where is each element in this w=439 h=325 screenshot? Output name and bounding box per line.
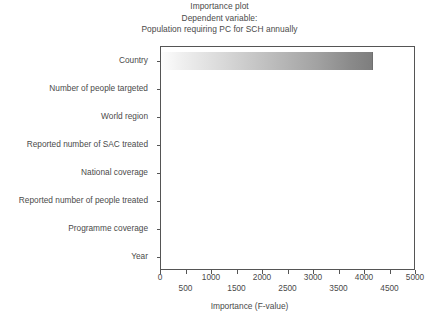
x-axis-title: Importance (F-value): [0, 301, 439, 311]
x-axis-tick-label: 3500: [329, 283, 347, 293]
bar-row: [161, 187, 414, 215]
bar-row: [161, 131, 414, 159]
y-axis-label: Number of people targeted: [49, 83, 148, 93]
importance-plot-figure: Importance plot Dependent variable: Popu…: [0, 0, 439, 325]
x-axis-tick-label: 4000: [355, 272, 373, 282]
x-axis-tick-label: 2000: [253, 272, 271, 282]
chart-title-block: Importance plot Dependent variable: Popu…: [0, 1, 439, 36]
bar: [161, 52, 373, 70]
x-axis-tick-label: 500: [179, 283, 193, 293]
plot-frame: [160, 46, 415, 270]
y-axis-label: Reported number of people treated: [19, 195, 148, 205]
bar-row: [161, 159, 414, 187]
x-axis-tick-label: 4500: [380, 283, 398, 293]
bar-row: [161, 75, 414, 103]
x-axis-tick-label: 5000: [406, 272, 424, 282]
bar-row: [161, 243, 414, 271]
y-axis-label: World region: [101, 111, 148, 121]
y-axis-label: Reported number of SAC treated: [27, 139, 148, 149]
bar-row: [161, 215, 414, 243]
x-axis-tick-label: 3000: [304, 272, 322, 282]
y-axis-label: Programme coverage: [68, 223, 148, 233]
x-axis-tick-label: 1000: [202, 272, 220, 282]
plot-area: [161, 47, 414, 269]
chart-subtitle: Dependent variable:: [0, 13, 439, 25]
chart-title: Importance plot: [0, 1, 439, 13]
x-axis-tick-label: 0: [158, 272, 163, 282]
chart-subtitle-secondary: Population requiring PC for SCH annually: [0, 24, 439, 36]
y-axis-label: National coverage: [81, 167, 148, 177]
x-axis-tick-labels: 0100020003000400050005001500250035004500: [0, 272, 439, 298]
x-axis-tick-label: 2500: [278, 283, 296, 293]
y-axis-label: Country: [119, 55, 148, 65]
y-axis-label: Year: [131, 251, 148, 261]
x-axis-tick-label: 1500: [227, 283, 245, 293]
y-axis-labels: CountryNumber of people targetedWorld re…: [0, 46, 154, 270]
x-axis-title-text: Importance (F-value): [151, 301, 289, 311]
bar-row: [161, 103, 414, 131]
bar-row: [161, 47, 414, 75]
